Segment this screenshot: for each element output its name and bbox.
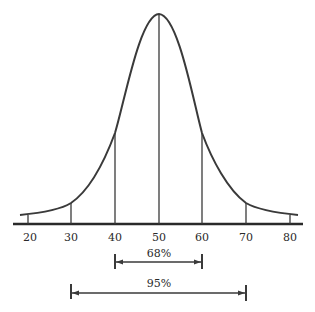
tick-label-20: 20 bbox=[23, 231, 37, 244]
tick-label-30: 30 bbox=[64, 231, 78, 244]
vertical-markers bbox=[28, 14, 290, 224]
tick-label-80: 80 bbox=[283, 231, 297, 244]
normal-distribution-chart: 20 30 40 50 60 70 80 68% 95% bbox=[0, 0, 315, 312]
tick-label-40: 40 bbox=[108, 231, 122, 244]
tick-label-50: 50 bbox=[152, 231, 166, 244]
interval-95-label: 95% bbox=[147, 277, 171, 290]
tick-label-60: 60 bbox=[195, 231, 209, 244]
tick-label-70: 70 bbox=[239, 231, 253, 244]
interval-68-label: 68% bbox=[147, 247, 171, 260]
